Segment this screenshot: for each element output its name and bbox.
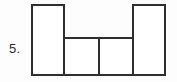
left-tall-rectangle bbox=[32, 5, 64, 75]
inner-left-rectangle bbox=[64, 38, 99, 75]
right-tall-rectangle bbox=[133, 5, 165, 75]
figure-stage: 5. bbox=[0, 0, 177, 82]
inner-right-rectangle bbox=[99, 38, 133, 75]
composite-figure-svg bbox=[0, 0, 177, 82]
